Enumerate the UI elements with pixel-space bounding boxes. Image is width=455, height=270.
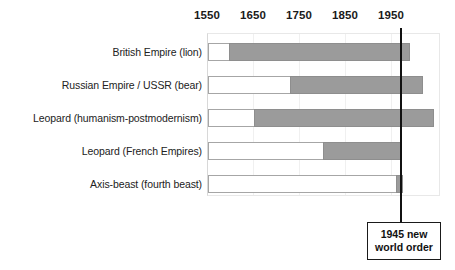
category-label-leopard-humanism: Leopard (humanism-postmodernism) — [0, 112, 202, 124]
bar-segment-blank — [208, 76, 291, 94]
x-tick-label-1750: 1750 — [276, 9, 322, 21]
bar-segment-span — [290, 76, 423, 94]
bar-segment-span — [323, 142, 401, 160]
x-tick-label-1950: 1950 — [368, 9, 414, 21]
category-label-british-empire: British Empire (lion) — [0, 46, 202, 58]
bar-segment-span — [254, 109, 434, 127]
callout-1945-new-world-order: 1945 new world order — [367, 222, 441, 260]
category-label-russian-empire: Russian Empire / USSR (bear) — [0, 79, 202, 91]
marker-line-1945 — [400, 28, 402, 223]
callout-line-1: 1945 new — [381, 228, 428, 240]
bar-segment-blank — [208, 109, 255, 127]
plot-area — [207, 33, 440, 196]
x-tick-label-1650: 1650 — [230, 9, 276, 21]
x-tick-label-1850: 1850 — [322, 9, 368, 21]
bar-segment-span — [229, 43, 410, 61]
chart-canvas: 1550 1650 1750 1850 1950 — [0, 0, 455, 270]
bar-segment-blank — [208, 142, 324, 160]
category-label-axis-beast: Axis-beast (fourth beast) — [0, 178, 202, 190]
bar-segment-blank — [208, 43, 230, 61]
bar-segment-blank — [208, 175, 397, 193]
callout-line-2: world order — [368, 241, 440, 254]
category-label-leopard-french: Leopard (French Empires) — [0, 145, 202, 157]
x-tick-label-1550: 1550 — [184, 9, 230, 21]
